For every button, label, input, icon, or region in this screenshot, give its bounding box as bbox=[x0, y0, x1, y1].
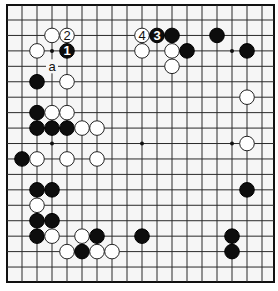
white-stone-icon bbox=[45, 229, 60, 244]
white-stone bbox=[45, 28, 60, 43]
black-stone bbox=[30, 213, 45, 228]
white-stone-icon bbox=[90, 152, 105, 167]
black-stone-icon bbox=[30, 229, 45, 244]
white-stone-icon bbox=[165, 59, 180, 74]
black-stone-icon bbox=[45, 183, 60, 198]
white-stone-icon bbox=[30, 198, 45, 213]
black-stone-icon bbox=[180, 44, 195, 59]
white-stone bbox=[90, 152, 105, 167]
white-stone bbox=[45, 105, 60, 120]
white-stone-icon bbox=[135, 44, 150, 59]
white-stone bbox=[90, 244, 105, 259]
white-stone-icon bbox=[240, 90, 255, 105]
black-stone bbox=[210, 28, 225, 43]
black-stone bbox=[90, 229, 105, 244]
white-stone-icon bbox=[60, 244, 75, 259]
black-stone bbox=[165, 28, 180, 43]
white-stone-icon bbox=[75, 229, 90, 244]
black-stone-icon bbox=[75, 244, 90, 259]
black-stone bbox=[45, 121, 60, 136]
move-number: 1 bbox=[63, 43, 70, 58]
white-stone-icon bbox=[45, 28, 60, 43]
white-stone-icon bbox=[30, 44, 45, 59]
black-stone-icon bbox=[240, 44, 255, 59]
white-stone bbox=[45, 229, 60, 244]
white-stone-icon bbox=[90, 244, 105, 259]
black-stone: 1 bbox=[60, 43, 75, 58]
black-stone bbox=[225, 244, 240, 259]
white-stone bbox=[60, 152, 75, 167]
star-point bbox=[230, 49, 234, 53]
white-stone-icon bbox=[90, 121, 105, 136]
black-stone bbox=[15, 152, 30, 167]
black-stone-icon bbox=[30, 121, 45, 136]
white-stone: 4 bbox=[135, 28, 150, 43]
black-stone-icon bbox=[30, 74, 45, 89]
white-stone bbox=[30, 198, 45, 213]
white-stone bbox=[75, 229, 90, 244]
white-stone bbox=[165, 44, 180, 59]
white-stone-icon bbox=[45, 105, 60, 120]
white-stone-icon bbox=[75, 121, 90, 136]
black-stone-icon bbox=[60, 121, 75, 136]
white-stone-icon bbox=[60, 152, 75, 167]
black-stone-icon bbox=[135, 229, 150, 244]
black-stone-icon bbox=[30, 105, 45, 120]
white-stone bbox=[30, 44, 45, 59]
black-stone: 3 bbox=[150, 28, 165, 43]
black-stone bbox=[240, 183, 255, 198]
markers-layer: a bbox=[46, 59, 58, 74]
black-stone-icon bbox=[30, 183, 45, 198]
move-number: 4 bbox=[138, 28, 145, 43]
white-stone bbox=[60, 105, 75, 120]
black-stone-icon bbox=[45, 121, 60, 136]
white-stone bbox=[60, 74, 75, 89]
black-stone bbox=[30, 229, 45, 244]
white-stone-icon bbox=[165, 44, 180, 59]
white-stone bbox=[105, 244, 120, 259]
white-stone bbox=[60, 244, 75, 259]
black-stone-icon bbox=[225, 244, 240, 259]
white-stone bbox=[75, 121, 90, 136]
black-stone bbox=[30, 105, 45, 120]
star-point bbox=[140, 142, 144, 146]
black-stone bbox=[30, 183, 45, 198]
black-stone-icon bbox=[15, 152, 30, 167]
white-stone bbox=[30, 152, 45, 167]
point-marker: a bbox=[46, 59, 58, 74]
move-number: 2 bbox=[63, 28, 70, 43]
move-number: 3 bbox=[153, 28, 160, 43]
star-point bbox=[230, 142, 234, 146]
black-stone-icon bbox=[165, 28, 180, 43]
black-stone bbox=[135, 229, 150, 244]
black-stone bbox=[225, 229, 240, 244]
black-stone bbox=[45, 213, 60, 228]
black-stone bbox=[45, 183, 60, 198]
star-point bbox=[50, 49, 54, 53]
black-stone-icon bbox=[30, 213, 45, 228]
white-stone-icon bbox=[60, 105, 75, 120]
white-stone bbox=[165, 59, 180, 74]
black-stone bbox=[30, 74, 45, 89]
white-stone bbox=[240, 136, 255, 151]
black-stone bbox=[180, 44, 195, 59]
white-stone-icon bbox=[105, 244, 120, 259]
white-stone bbox=[240, 90, 255, 105]
white-stone-icon bbox=[240, 136, 255, 151]
black-stone bbox=[30, 121, 45, 136]
white-stone-icon bbox=[60, 74, 75, 89]
white-stone bbox=[135, 44, 150, 59]
black-stone-icon bbox=[90, 229, 105, 244]
marker-label: a bbox=[48, 59, 56, 74]
go-board-diagram: 2431 a bbox=[0, 0, 278, 291]
black-stone bbox=[240, 44, 255, 59]
white-stone: 2 bbox=[60, 28, 75, 43]
black-stone-icon bbox=[225, 229, 240, 244]
black-stone bbox=[60, 121, 75, 136]
star-point bbox=[50, 142, 54, 146]
black-stone-icon bbox=[240, 183, 255, 198]
white-stone-icon bbox=[30, 152, 45, 167]
black-stone-icon bbox=[210, 28, 225, 43]
black-stone-icon bbox=[45, 213, 60, 228]
black-stone bbox=[75, 244, 90, 259]
